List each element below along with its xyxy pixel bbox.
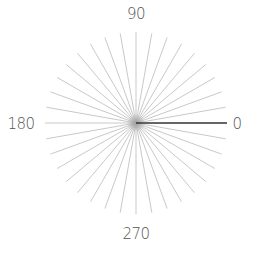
angle-dial[interactable] xyxy=(0,0,257,253)
label-angle-90: 90 xyxy=(127,7,145,22)
label-angle-270: 270 xyxy=(122,227,149,242)
label-angle-0: 0 xyxy=(232,117,241,132)
label-angle-180: 180 xyxy=(7,117,34,132)
